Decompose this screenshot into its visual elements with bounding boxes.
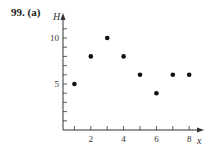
x-tick-label: 8 (187, 134, 192, 144)
x-axis-label: x (196, 135, 202, 146)
data-point (171, 73, 176, 78)
scatter-chart: 2468510Hx (0, 0, 213, 156)
data-point (72, 82, 77, 87)
x-tick-label: 2 (89, 134, 94, 144)
data-point (187, 73, 192, 78)
data-point (89, 54, 94, 59)
y-tick-label: 10 (50, 33, 60, 43)
data-point (154, 91, 159, 96)
y-axis-arrow-icon (61, 13, 66, 20)
x-axis-arrow-icon (197, 128, 204, 133)
y-axis-label: H (52, 11, 61, 22)
data-point (138, 73, 143, 78)
data-point (105, 36, 110, 41)
x-tick-label: 4 (121, 134, 126, 144)
data-point (121, 54, 126, 59)
x-tick-label: 6 (154, 134, 159, 144)
y-tick-label: 5 (55, 79, 60, 89)
